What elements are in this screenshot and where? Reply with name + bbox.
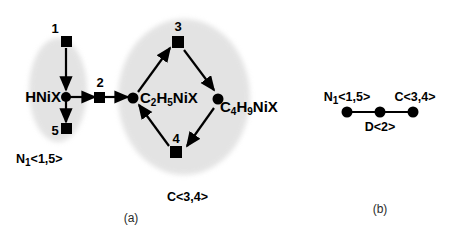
reaction-square-1[interactable] bbox=[61, 36, 72, 47]
svg-text:C<3,4>: C<3,4> bbox=[394, 90, 435, 104]
abstract-label-d: D<2> bbox=[365, 120, 396, 134]
reaction-square-3[interactable] bbox=[172, 36, 184, 48]
panel-b-caption: (b) bbox=[373, 202, 388, 216]
reaction-square-2[interactable] bbox=[94, 92, 105, 103]
reaction-index-2: 2 bbox=[96, 75, 103, 90]
group-label-c: C<3,4> bbox=[167, 190, 208, 204]
reaction-index-5: 5 bbox=[51, 123, 58, 138]
reaction-index-1: 1 bbox=[51, 21, 58, 36]
reaction-square-4[interactable] bbox=[170, 146, 182, 158]
panel-b: N1<1,5> D<2> C<3,4> (b) bbox=[324, 90, 436, 216]
reaction-index-3: 3 bbox=[174, 19, 181, 34]
panel-a: 1 5 2 3 4 HNiX C2H5NiX C4H9NiX N1<1,5> bbox=[16, 19, 278, 225]
abstract-label-c: C<3,4> bbox=[394, 90, 435, 104]
abstract-label-n1: N1<1,5> bbox=[324, 90, 371, 106]
svg-text:N1<1,5>: N1<1,5> bbox=[16, 152, 63, 168]
figure-root: 1 5 2 3 4 HNiX C2H5NiX C4H9NiX N1<1,5> bbox=[0, 0, 454, 238]
species-label-hnix: HNiX bbox=[25, 88, 61, 105]
abstract-node-n1[interactable] bbox=[342, 107, 353, 118]
reaction-network-figure: 1 5 2 3 4 HNiX C2H5NiX C4H9NiX N1<1,5> bbox=[0, 0, 454, 238]
abstract-node-d[interactable] bbox=[375, 107, 386, 118]
species-node-c2h5nix[interactable] bbox=[128, 93, 139, 104]
svg-text:D<2>: D<2> bbox=[365, 120, 396, 134]
reaction-index-4: 4 bbox=[172, 131, 180, 146]
reaction-square-5[interactable] bbox=[61, 123, 72, 134]
group-label-n1: N1<1,5> bbox=[16, 152, 63, 168]
svg-text:N1<1,5>: N1<1,5> bbox=[324, 90, 371, 106]
svg-text:C<3,4>: C<3,4> bbox=[167, 190, 208, 204]
abstract-node-c[interactable] bbox=[408, 107, 419, 118]
species-node-hnix[interactable] bbox=[61, 92, 71, 102]
panel-a-caption: (a) bbox=[124, 211, 139, 225]
